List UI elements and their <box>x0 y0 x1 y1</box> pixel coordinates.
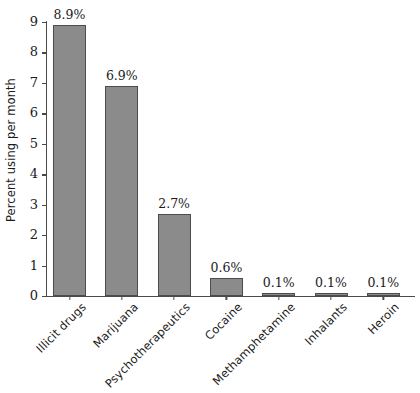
y-axis-title-text: Percent using per month <box>4 78 18 222</box>
y-axis-tick-label: 1 <box>30 257 38 274</box>
x-axis-tick-mark <box>121 295 122 300</box>
x-axis-tick-mark <box>173 295 174 300</box>
y-axis-tick-label: 6 <box>30 104 38 121</box>
bar-value-label: 2.7% <box>158 196 190 211</box>
y-axis-tick-mark <box>42 296 47 297</box>
x-axis-tick-mark <box>278 295 279 300</box>
y-axis-tick: 9 <box>0 22 47 23</box>
y-axis-tick-label: 2 <box>30 226 38 243</box>
bar-group[interactable]: 6.9% <box>105 22 138 296</box>
x-axis-label-text: Heroin <box>365 300 402 337</box>
x-axis-tick-mark <box>383 295 384 300</box>
y-axis-tick-label: 3 <box>30 196 38 213</box>
y-axis-tick: 2 <box>0 235 47 236</box>
x-axis-label-text: Inhalants <box>302 300 350 348</box>
x-axis-tick-mark <box>69 295 70 300</box>
bar-chart: Percent using per month 0123456789 8.9%6… <box>0 0 420 393</box>
bar-group[interactable]: 8.9% <box>53 22 86 296</box>
y-axis-tick: 0 <box>0 296 47 297</box>
bar[interactable] <box>53 25 86 296</box>
y-axis-tick-label: 9 <box>30 13 38 30</box>
x-axis-tick-mark <box>226 295 227 300</box>
bar-group[interactable]: 0.1% <box>367 22 400 296</box>
y-axis-tick: 8 <box>0 52 47 53</box>
y-axis-tick: 1 <box>0 266 47 267</box>
bar-value-label: 8.9% <box>54 7 86 22</box>
bar-value-label: 6.9% <box>106 68 138 83</box>
y-axis-tick: 5 <box>0 144 47 145</box>
y-axis-tick: 3 <box>0 205 47 206</box>
bar-group[interactable]: 2.7% <box>158 22 191 296</box>
y-axis-tick: 4 <box>0 174 47 175</box>
y-axis-tick: 6 <box>0 113 47 114</box>
x-axis-label-text: Marijuana <box>90 300 141 351</box>
y-axis-tick-label: 5 <box>30 135 38 152</box>
bar-group[interactable]: 0.1% <box>262 22 295 296</box>
y-axis-title: Percent using per month <box>0 0 22 300</box>
x-axis-label-text: Cocaine <box>202 300 245 343</box>
x-axis-label-text: Illicit drugs <box>33 300 89 356</box>
y-axis-tick-label: 8 <box>30 43 38 60</box>
y-axis-tick-label: 7 <box>30 74 38 91</box>
y-axis-tick-label: 0 <box>30 287 38 304</box>
y-axis-tick-label: 4 <box>30 165 38 182</box>
y-axis-tick: 7 <box>0 83 47 84</box>
x-axis-tick-mark <box>330 295 331 300</box>
